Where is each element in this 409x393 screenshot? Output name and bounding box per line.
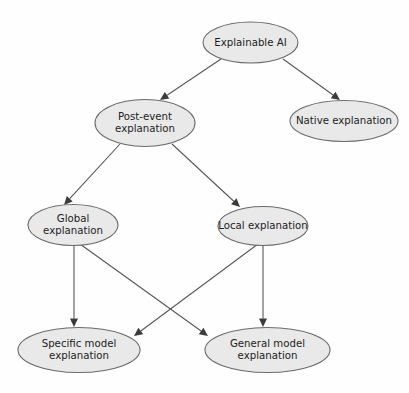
arrow-head-icon [134, 328, 143, 336]
edge-global-to-specific [70, 246, 78, 328]
edge-line [167, 59, 221, 95]
arrow-head-icon [331, 92, 340, 100]
node-shape-ellipse[interactable] [203, 22, 298, 63]
edge-xai-to-post-event [160, 59, 221, 100]
edge-line [283, 59, 333, 95]
edges-layer [64, 59, 340, 336]
node-shape-ellipse[interactable] [95, 100, 195, 147]
node-specific-model-explanation[interactable]: Specific modelexplanation [18, 328, 140, 373]
edge-line [80, 244, 201, 331]
node-explainable-ai[interactable]: Explainable AI [203, 22, 298, 63]
edge-xai-to-native [283, 59, 340, 100]
edge-local-to-specific [134, 244, 258, 336]
arrow-head-icon [259, 319, 267, 328]
edge-line [141, 244, 258, 331]
arrow-head-icon [160, 92, 169, 100]
node-post-event-explanation[interactable]: Post-eventexplanation [95, 100, 195, 147]
node-general-model-explanation[interactable]: General modelexplanation [205, 328, 330, 373]
node-global-explanation[interactable]: Globalexplanation [28, 205, 118, 246]
edge-local-to-general [259, 246, 267, 328]
edge-line [70, 144, 120, 199]
arrow-head-icon [70, 319, 78, 328]
node-shape-ellipse[interactable] [28, 205, 118, 246]
edge-line [172, 144, 234, 201]
node-shape-ellipse[interactable] [290, 101, 398, 142]
node-shape-ellipse[interactable] [205, 328, 330, 373]
node-native-explanation[interactable]: Native explanation [290, 101, 398, 142]
node-local-explanation[interactable]: Local explanation [218, 207, 308, 246]
node-shape-ellipse[interactable] [18, 328, 140, 373]
diagram-canvas: Explainable AIPost-eventexplanationNativ… [0, 0, 409, 393]
edge-post-event-to-local [172, 144, 240, 207]
edge-global-to-general [80, 244, 208, 336]
explainable-ai-taxonomy-diagram: Explainable AIPost-eventexplanationNativ… [0, 0, 409, 393]
arrow-head-icon [199, 328, 208, 336]
node-shape-ellipse[interactable] [218, 207, 308, 246]
edge-post-event-to-global [64, 144, 120, 205]
